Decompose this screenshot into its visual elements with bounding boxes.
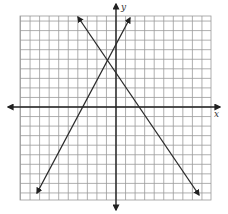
- coordinate-plane: x y: [0, 0, 228, 214]
- plotted-lines: [37, 17, 199, 195]
- y-axis-label: y: [120, 2, 127, 12]
- x-axis-label: x: [214, 109, 219, 119]
- line-falling: [78, 17, 199, 195]
